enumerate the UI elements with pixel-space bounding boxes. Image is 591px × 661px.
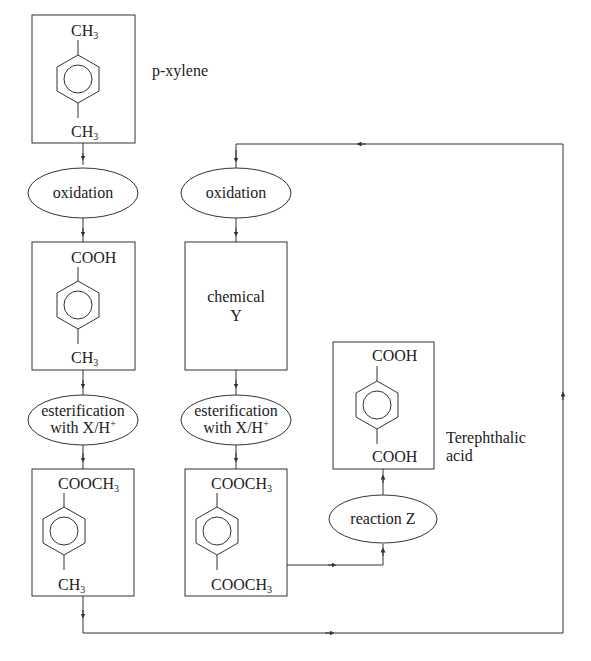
- pxylene-bottom-group: CH3: [71, 123, 98, 142]
- methyl-toluate-bottom-group: CH3: [58, 576, 85, 595]
- toluic-bottom-group: CH3: [71, 349, 98, 368]
- reaction-z-label: reaction Z: [350, 510, 415, 527]
- benzene-ring-icon: [196, 493, 238, 570]
- pxylene-top-group: CH3: [71, 22, 98, 41]
- toluic-top-group: COOH: [71, 249, 117, 266]
- recycle-loop-line: [83, 144, 563, 633]
- benzene-ring-icon: [57, 40, 99, 118]
- esterification-1-line2: with X/H+: [50, 418, 116, 436]
- oxidation-2-label: oxidation: [206, 184, 266, 201]
- pxylene-label: p-xylene: [152, 62, 208, 80]
- esterification-2-line2: with X/H+: [203, 418, 269, 436]
- dmt-bottom-group: COOCH3: [211, 576, 272, 595]
- benzene-ring-icon: [356, 366, 398, 444]
- chemical-y-line1: chemical: [207, 288, 265, 305]
- benzene-ring-icon: [57, 267, 99, 344]
- chemical-y-line2: Y: [230, 307, 242, 324]
- ta-top-group: COOH: [372, 347, 418, 364]
- benzene-ring-icon: [43, 493, 85, 570]
- ta-label-line1: Terephthalic: [446, 429, 526, 447]
- methyl-toluate-top-group: COOCH3: [58, 475, 119, 494]
- ta-label-line2: acid: [446, 447, 473, 464]
- chemical-y-box: [185, 242, 287, 370]
- esterification-2-line1: esterification: [194, 402, 278, 419]
- dmt-top-group: COOCH3: [211, 475, 272, 494]
- ta-bottom-group: COOH: [372, 448, 418, 465]
- esterification-1-line1: esterification: [41, 402, 125, 419]
- oxidation-1-label: oxidation: [53, 184, 113, 201]
- process-flow-diagram: CH3 CH3 p-xylene oxidation oxidation COO…: [0, 0, 591, 661]
